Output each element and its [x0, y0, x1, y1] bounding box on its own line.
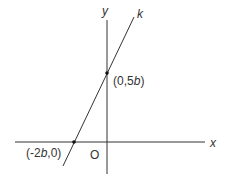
y-axis-label: y: [101, 4, 109, 18]
point-x-intercept: [72, 140, 76, 144]
x-axis-label: x: [209, 136, 217, 150]
origin-label: O: [90, 148, 99, 162]
x-intercept-label: (-2b,0): [26, 146, 61, 160]
y-intercept-label: (0,5b): [113, 74, 144, 88]
point-y-intercept: [105, 71, 109, 75]
coordinate-diagram: y k x O (0,5b) (-2b,0): [0, 0, 227, 182]
line-k-label: k: [137, 7, 144, 21]
